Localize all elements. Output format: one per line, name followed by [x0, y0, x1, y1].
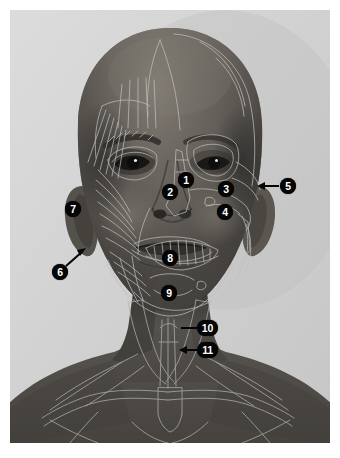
marker-2[interactable]: 2: [162, 184, 178, 200]
anatomy-photo-plate: [10, 10, 330, 443]
anatomy-illustration: [10, 10, 330, 443]
marker-3[interactable]: 3: [218, 181, 234, 197]
marker-9[interactable]: 9: [161, 285, 177, 301]
marker-1[interactable]: 1: [178, 172, 194, 188]
anatomy-figure: 1 2 3 4 5 6 7 8 9 10 11: [0, 0, 340, 458]
marker-4[interactable]: 4: [217, 204, 233, 220]
marker-8[interactable]: 8: [162, 250, 178, 266]
marker-6[interactable]: 6: [52, 264, 68, 280]
marker-10[interactable]: 10: [197, 320, 218, 336]
marker-5[interactable]: 5: [280, 178, 296, 194]
marker-11[interactable]: 11: [197, 342, 218, 358]
marker-7[interactable]: 7: [65, 201, 81, 217]
